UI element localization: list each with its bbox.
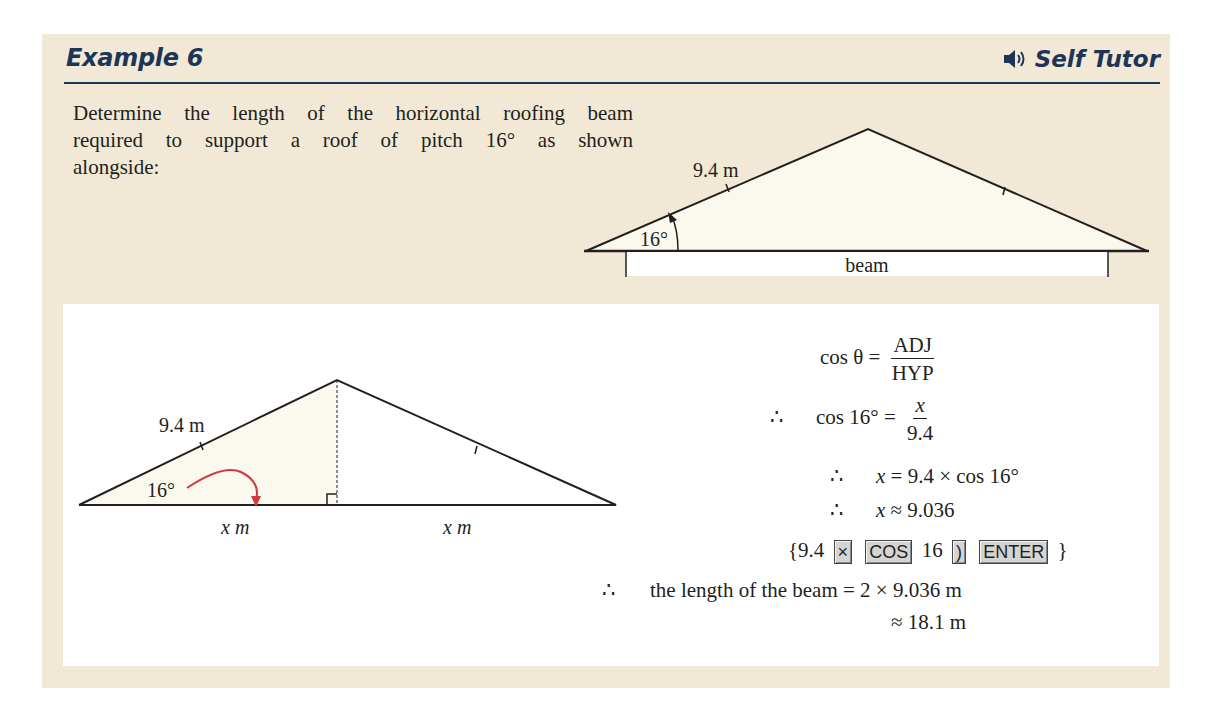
question-line: Determine the length of the horizontal r… — [73, 100, 633, 127]
header-divider — [64, 82, 1160, 84]
solution-panel: 9.4 m 16° x m x m cos θ = ADJHYP ∴cos 16… — [63, 304, 1159, 666]
bottom-side-label: 9.4 m — [159, 414, 205, 436]
self-tutor-label: Self Tutor — [1035, 46, 1160, 72]
right-base-label: x m — [442, 516, 471, 538]
speaker-icon — [1003, 48, 1029, 70]
top-angle-label: 16° — [640, 228, 668, 250]
key-multiply: × — [834, 540, 853, 564]
bottom-angle-label: 16° — [147, 479, 175, 501]
eq-beam-result: ≈ 18.1 m — [891, 610, 966, 635]
key-close-paren: ) — [952, 540, 966, 564]
eq-cos-theta: cos θ = ADJHYP — [820, 332, 940, 387]
solution-diagram: 9.4 m 16° x m x m — [63, 304, 683, 554]
example-title: Example 6 — [66, 44, 203, 72]
calculator-sequence: {9.4 × COS 16 ) ENTER } — [788, 538, 1067, 564]
key-cos: COS — [865, 540, 912, 564]
left-base-label: x m — [220, 516, 249, 538]
key-enter: ENTER — [979, 540, 1048, 564]
eq-beam-length: ∴the length of the beam = 2 × 9.036 m — [602, 578, 962, 603]
question-line: required to support a roof of pitch 16° … — [73, 127, 633, 154]
example-box: Example 6 Self Tutor Determine the lengt… — [42, 34, 1170, 688]
eq-cos-16: ∴cos 16° = x9.4 — [770, 392, 939, 447]
eq-x-value: ∴x ≈ 9.036 — [830, 498, 955, 523]
roof-diagram: 9.4 m 16° beam — [580, 122, 1160, 282]
top-side-label: 9.4 m — [693, 159, 739, 181]
question-line: alongside: — [73, 154, 633, 181]
eq-x-product: ∴x = 9.4 × cos 16° — [830, 464, 1019, 489]
question-text: Determine the length of the horizontal r… — [73, 100, 633, 181]
self-tutor-button[interactable]: Self Tutor — [1003, 46, 1160, 72]
beam-label: beam — [845, 254, 889, 276]
